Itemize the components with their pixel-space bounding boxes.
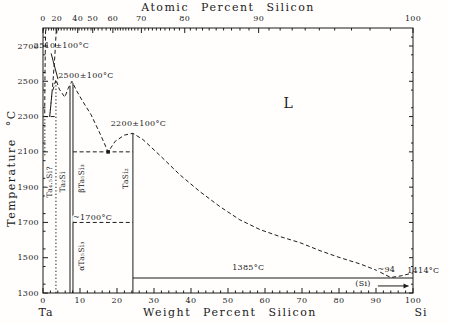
plot-frame bbox=[43, 28, 413, 293]
top-axis-tick-label: 40 bbox=[72, 14, 83, 23]
eutectic-comp-94-label: ~94 bbox=[377, 265, 395, 274]
eutectic-point-marker bbox=[106, 150, 110, 154]
y-axis-tick-label: 1300 bbox=[17, 289, 39, 298]
x-axis-tick-label: 50 bbox=[223, 296, 234, 305]
phase-label: αTa₅Si₃ bbox=[77, 241, 86, 271]
y-axis-tick-label: 1500 bbox=[17, 253, 39, 262]
top-axis-tick-label: 70 bbox=[136, 14, 147, 23]
top-axis-tick-label: 90 bbox=[253, 14, 264, 23]
phase-label: Ta₄.₅Si? bbox=[45, 166, 54, 197]
si-region-arrowhead bbox=[404, 283, 409, 288]
plot-svg: Atomic Percent Silicon Weight Percent Si… bbox=[0, 0, 449, 323]
si-melting-label: 1414°C bbox=[407, 266, 439, 275]
melt-2500-label: 2500±100°C bbox=[58, 71, 113, 80]
top-axis-tick-label: 100 bbox=[405, 14, 421, 23]
top-axis-tick-label: 50 bbox=[87, 14, 98, 23]
x-axis-title: Weight Percent Silicon bbox=[143, 306, 317, 319]
y-axis-tick-label: 2500 bbox=[17, 77, 39, 86]
x-axis-tick-label: 10 bbox=[75, 296, 86, 305]
y-axis-title: Temperature °C bbox=[5, 109, 18, 226]
phase-label: Ta₂Si bbox=[58, 171, 67, 192]
phase-label: βTa₅Si₃ bbox=[77, 164, 86, 193]
phase-label: TaSi₂ bbox=[121, 168, 130, 189]
x-axis-tick-label: 80 bbox=[334, 296, 345, 305]
melt-2510-label: 2510±100°C bbox=[34, 41, 89, 50]
transform-temp-label: ~1700°C bbox=[73, 213, 112, 222]
y-axis-tick-label: 2100 bbox=[17, 147, 39, 156]
top-axis-tick-label: 60 bbox=[107, 14, 118, 23]
x-axis-tick-label: 0 bbox=[40, 296, 45, 305]
top-axis-tick-label: 0 bbox=[40, 14, 45, 23]
eutectic-temp-1385-label: 1385°C bbox=[232, 263, 264, 272]
x-axis-tick-label: 70 bbox=[297, 296, 308, 305]
corner-label-ta: Ta bbox=[38, 306, 53, 319]
x-axis-tick-label: 30 bbox=[149, 296, 160, 305]
y-axis-tick-label: 1700 bbox=[17, 218, 39, 227]
x-axis-tick-label: 60 bbox=[260, 296, 271, 305]
top-axis-tick-label: 20 bbox=[51, 14, 62, 23]
top-axis-tick-label: 80 bbox=[179, 14, 190, 23]
si-phase-label: (Si) bbox=[355, 279, 370, 288]
y-axis-tick-label: 1900 bbox=[17, 183, 39, 192]
melt-2200-label: 2200±100°C bbox=[111, 119, 166, 128]
x-axis-tick-label: 90 bbox=[371, 296, 382, 305]
y-axis-tick-label: 2300 bbox=[17, 112, 39, 121]
liquid-region-label: L bbox=[284, 95, 294, 111]
x-axis-tick-label: 40 bbox=[186, 296, 197, 305]
x-axis-tick-label: 100 bbox=[405, 296, 421, 305]
top-axis-title: Atomic Percent Silicon bbox=[140, 1, 315, 14]
corner-label-si: Si bbox=[414, 306, 427, 319]
ta-si-phase-diagram: Atomic Percent Silicon Weight Percent Si… bbox=[0, 0, 449, 323]
x-axis-tick-label: 20 bbox=[112, 296, 123, 305]
liquidus-main-curve bbox=[50, 80, 413, 278]
plot-generated-content: 0102030405060708090100020405060708090100… bbox=[17, 14, 439, 305]
